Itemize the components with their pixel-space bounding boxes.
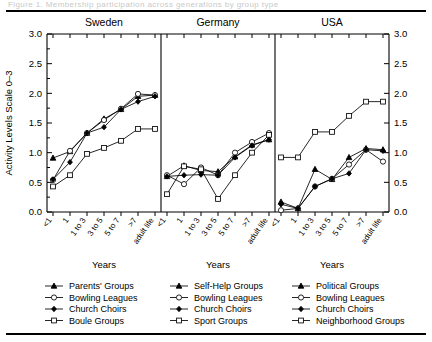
y-tick-label-right: 2.0 — [394, 88, 407, 99]
y-tick-label-left: 3.0 — [29, 28, 42, 39]
x-tick-label: 5 to 7 — [331, 216, 350, 238]
y-tick-label-left: 0.0 — [29, 206, 42, 217]
data-point — [279, 155, 284, 160]
y-tick-label-left: 2.5 — [29, 58, 42, 69]
y-tick-label-right: 2.5 — [394, 58, 407, 69]
data-point — [136, 127, 141, 132]
legend-label: Bowling Leagues — [194, 293, 263, 303]
legend-label: Boule Groups — [69, 316, 125, 326]
multi-panel-line-chart: Sweden<111 to 33 to 55 to 7>7adult lifeY… — [0, 12, 432, 332]
data-point — [346, 154, 352, 159]
y-tick-label-left: 2.0 — [29, 88, 42, 99]
bottom-rule — [6, 333, 426, 335]
data-point — [233, 173, 238, 178]
panel-title-germany: Germany — [196, 16, 240, 28]
legend-label: Church Choirs — [316, 304, 374, 314]
legend-group: Parents' GroupsBowling LeaguesChurch Cho… — [45, 281, 405, 326]
data-point — [181, 182, 186, 187]
y-tick-label-right: 0.0 — [394, 206, 407, 217]
data-point — [313, 130, 318, 135]
x-tick-label: 3 to 5 — [86, 216, 105, 238]
legend-label: Church Choirs — [194, 304, 252, 314]
data-point — [165, 192, 170, 197]
legend-label: Parents' Groups — [69, 281, 134, 291]
panel-title-usa: USA — [321, 16, 343, 28]
data-point — [278, 208, 283, 213]
legend-marker-square-open — [52, 318, 57, 323]
legend-marker-square-open — [177, 318, 182, 323]
legend-marker-square-open — [299, 318, 304, 323]
x-tick-label: 3 to 5 — [314, 216, 333, 238]
data-point — [267, 132, 272, 137]
data-point — [380, 159, 385, 164]
x-tick-label: 1 to 3 — [183, 216, 202, 238]
data-point — [67, 148, 72, 153]
x-axis-label-germany: Years — [206, 259, 230, 270]
data-point — [330, 130, 335, 135]
data-point — [199, 167, 204, 172]
legend-marker-circle-open — [298, 295, 303, 300]
x-tick-label: 5 to 7 — [103, 216, 122, 238]
figure-root: Figure 1. Membership participation acros… — [0, 0, 432, 342]
panel-title-sweden: Sweden — [85, 16, 123, 28]
data-point — [136, 99, 141, 104]
legend-marker-circle-open — [51, 295, 56, 300]
x-tick-label: 1 to 3 — [69, 216, 88, 238]
data-point — [68, 173, 73, 178]
legend-marker-circle-open — [176, 295, 181, 300]
x-tick-label: 3 to 5 — [200, 216, 219, 238]
data-point — [312, 166, 318, 171]
x-tick-label: 1 to 3 — [297, 216, 316, 238]
x-tick-label: 1 — [175, 216, 185, 225]
y-tick-label-left: 1.5 — [29, 117, 42, 128]
data-point — [153, 127, 158, 132]
data-point — [347, 113, 352, 118]
x-tick-label: 1 — [289, 216, 299, 225]
x-tick-label: <1 — [269, 216, 282, 229]
data-point — [182, 173, 187, 178]
panels-group: Sweden<111 to 33 to 55 to 7>7adult lifeY… — [41, 16, 389, 270]
y-tick-label-left: 0.5 — [29, 177, 42, 188]
y-tick-label-right: 0.5 — [394, 177, 407, 188]
legend-marker-diamond-filled — [299, 306, 304, 311]
y-tick-label-right: 3.0 — [394, 28, 407, 39]
x-tick-label: 1 — [61, 216, 71, 225]
data-point — [182, 164, 187, 169]
data-point — [364, 99, 369, 104]
x-tick-label: <1 — [155, 216, 168, 229]
data-point — [216, 197, 221, 202]
legend-marker-diamond-filled — [177, 306, 182, 311]
legend-label: Political Groups — [316, 281, 380, 291]
x-tick-label: >7 — [240, 216, 253, 229]
data-point — [85, 151, 90, 156]
data-point — [250, 150, 255, 155]
y-tick-label-left: 1.0 — [29, 147, 42, 158]
data-point — [119, 138, 124, 143]
x-tick-label: >7 — [126, 216, 139, 229]
y-tick-label-right: 1.0 — [394, 147, 407, 158]
data-point — [296, 155, 301, 160]
x-tick-label: 5 to 7 — [217, 216, 236, 238]
legend-label: Church Choirs — [69, 304, 127, 314]
data-point — [381, 99, 386, 104]
y-tick-label-right: 1.5 — [394, 117, 407, 128]
y-axis-label: Activity Levels Scale 0–3 — [3, 70, 14, 175]
x-axis-label-usa: Years — [320, 259, 344, 270]
data-point — [101, 117, 106, 122]
data-point — [346, 162, 351, 167]
series-line — [53, 94, 155, 180]
y-axes-group: 0.00.00.50.51.01.01.51.52.02.02.52.53.03… — [3, 28, 407, 217]
x-tick-label: <1 — [41, 216, 54, 229]
legend-label: Sport Groups — [194, 316, 248, 326]
legend-label: Self-Help Groups — [194, 281, 264, 291]
legend-label: Neighborhood Groups — [316, 316, 405, 326]
data-point — [102, 146, 107, 151]
x-tick-label: >7 — [354, 216, 367, 229]
x-axis-label-sweden: Years — [92, 259, 116, 270]
legend-marker-diamond-filled — [52, 306, 57, 311]
data-point — [135, 91, 140, 96]
legend-label: Bowling Leagues — [69, 293, 138, 303]
series-line — [53, 96, 155, 179]
data-point — [51, 184, 56, 189]
legend-label: Bowling Leagues — [316, 293, 385, 303]
